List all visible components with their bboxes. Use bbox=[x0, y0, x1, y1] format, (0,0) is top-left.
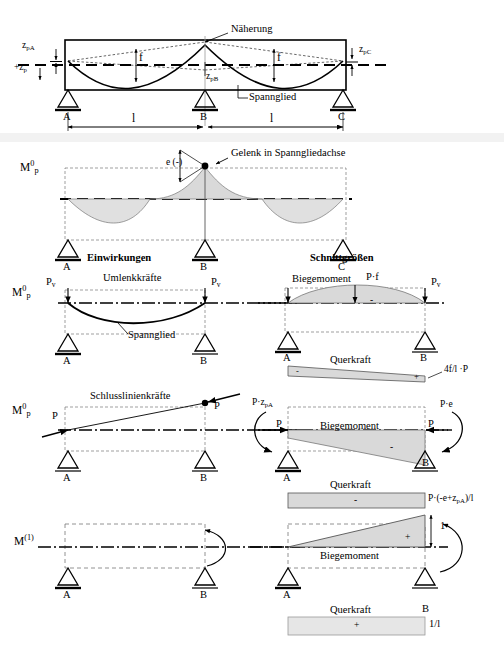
row5-right-support-a bbox=[275, 568, 301, 588]
label-support-b-row4-right: B bbox=[422, 458, 429, 469]
label-zpa: zpA bbox=[22, 41, 35, 52]
row1-zpc-arrow bbox=[346, 48, 358, 76]
row4-right-support-a bbox=[275, 451, 301, 471]
row4-left-force-a-arrow bbox=[42, 430, 68, 437]
label-support-b-row5-left: B bbox=[200, 590, 207, 601]
label-support-b-row3-right: B bbox=[420, 353, 427, 364]
row3-left-tendon bbox=[68, 303, 205, 323]
row5-left-moment-arc bbox=[205, 530, 226, 566]
row1-support-a bbox=[55, 90, 81, 110]
label-span-right: l bbox=[270, 113, 273, 125]
label-moment-pe: P·e bbox=[440, 400, 453, 410]
row2-moment-peak-b bbox=[150, 167, 262, 199]
label-support-a-row5-left: A bbox=[63, 590, 71, 601]
label-biegemoment-row5: Biegemoment bbox=[320, 551, 379, 562]
row3-right-shear-leader bbox=[428, 372, 442, 378]
row3-left-spannglied-leader bbox=[118, 323, 128, 334]
label-support-b-row4-left: B bbox=[200, 473, 207, 484]
label-support-c-row1: C bbox=[338, 112, 345, 123]
header-einwirkungen: Einwirkungen bbox=[87, 253, 151, 264]
label-p-right-row4-right: P bbox=[428, 419, 434, 430]
row5-left-support-b bbox=[192, 568, 218, 588]
label-shear-value-row3: 4f/l ·P bbox=[444, 365, 468, 375]
label-zpb: zpB bbox=[206, 72, 218, 83]
label-support-a-row4-left: A bbox=[63, 473, 71, 484]
label-support-a-row4-right: A bbox=[283, 473, 291, 484]
row4-left-frame bbox=[65, 407, 205, 451]
row2-gelenk-leader bbox=[216, 158, 228, 164]
label-m1-peak-value: 1 bbox=[440, 521, 445, 532]
row3-right-moment-area bbox=[288, 285, 425, 303]
label-support-c-row2: C bbox=[338, 262, 345, 273]
label-support-b-row5-right: B bbox=[422, 604, 429, 615]
sign-plus-row5-shear: + bbox=[354, 621, 359, 631]
sign-minus-row3-moment: - bbox=[370, 296, 373, 306]
label-querkraft-row4: Querkraft bbox=[330, 480, 371, 491]
label-biegemoment-row4: Biegemoment bbox=[320, 421, 379, 432]
label-spannglied-row3: Spannglied bbox=[128, 330, 175, 341]
row2-support-b bbox=[192, 240, 218, 260]
row5-right-support-b bbox=[412, 568, 438, 588]
label-support-a-row2: A bbox=[63, 262, 71, 273]
row5-left-support-a bbox=[55, 568, 81, 588]
label-zp: +zp bbox=[14, 63, 27, 74]
label-schlusslinienkraefte: Schlusslinienkräfte bbox=[90, 391, 170, 402]
label-e-eccentricity: e (-) bbox=[166, 158, 182, 168]
row4-left-support-a bbox=[55, 451, 81, 471]
label-moment-pzpa: P·zpA bbox=[252, 398, 273, 409]
label-f-right: f bbox=[277, 52, 281, 64]
label-spannglied-row1: Spannglied bbox=[249, 92, 296, 103]
row2-moment-span-left bbox=[68, 199, 150, 223]
row4-right-moment-area bbox=[288, 430, 425, 465]
label-pv-right: Pv bbox=[211, 277, 221, 289]
label-biegemoment-row3: Biegemoment bbox=[292, 274, 351, 285]
label-p-right-row4: P bbox=[214, 401, 220, 412]
label-umlenkkraefte: Umlenkkräfte bbox=[103, 273, 161, 284]
label-support-a-row3-right: A bbox=[283, 353, 291, 364]
row4-left-support-b bbox=[192, 451, 218, 471]
label-support-a-row1: A bbox=[63, 112, 71, 123]
label-mp0-row3: M0p bbox=[12, 285, 31, 300]
label-shear-value-row4: P·(-e+zpA)/l bbox=[428, 494, 473, 505]
row1-spannglied-leader bbox=[238, 85, 248, 98]
label-p-left-row4: P bbox=[52, 411, 58, 422]
sign-plus-row3-shear: + bbox=[414, 372, 419, 381]
label-support-b-row1: B bbox=[200, 112, 207, 123]
row4-right-moment-arc-b bbox=[442, 412, 462, 452]
sign-minus-row3-shear: - bbox=[296, 367, 299, 376]
label-querkraft-row3: Querkraft bbox=[330, 355, 371, 366]
label-zpc: zpC bbox=[359, 45, 371, 56]
label-gelenk: Gelenk in Spanngliedachse bbox=[231, 148, 345, 159]
label-p-left-row4-right: P bbox=[276, 419, 282, 430]
row2-moment-span-right bbox=[262, 199, 343, 223]
row1-support-c bbox=[330, 90, 356, 110]
label-f-left: f bbox=[139, 52, 143, 64]
label-querkraft-row5: Querkraft bbox=[330, 605, 371, 616]
label-support-a-row3-left: A bbox=[63, 356, 71, 367]
row3-left-support-a bbox=[55, 334, 81, 354]
row3-right-support-a bbox=[275, 332, 301, 352]
engineering-figure: Näherung zpA +zp zpB zpC f f Spannglied … bbox=[0, 0, 504, 647]
row3-right-shear-area bbox=[288, 366, 425, 382]
label-mp0-row2: M0p bbox=[20, 160, 39, 175]
sign-minus-row4-moment: - bbox=[390, 443, 393, 453]
label-support-b-row2: B bbox=[200, 262, 207, 273]
label-m1-row5: M(1) bbox=[14, 534, 34, 547]
header-schnittgroessen: Schnittgrößen bbox=[310, 253, 374, 264]
label-naeherung: Näherung bbox=[231, 24, 272, 35]
label-support-b-row3-left: B bbox=[200, 356, 207, 367]
sign-minus-row4-shear: - bbox=[354, 496, 357, 506]
row5-left-frame bbox=[65, 524, 205, 568]
label-pv-right-row3: Pv bbox=[431, 277, 441, 289]
row3-left-support-b bbox=[192, 334, 218, 354]
row4-left-node-b bbox=[202, 400, 208, 406]
label-support-a-row5-right: A bbox=[283, 590, 291, 601]
label-pf-peak: P·f bbox=[366, 272, 379, 283]
label-pv-left: Pv bbox=[46, 277, 56, 289]
row4-right-moment-arc-a bbox=[255, 412, 272, 452]
label-mp0-row4: M0p bbox=[12, 403, 31, 418]
row3-right-support-b bbox=[412, 332, 438, 352]
label-shear-value-row5: 1/l bbox=[429, 619, 440, 630]
label-span-left: l bbox=[132, 113, 135, 125]
sign-plus-row5-moment: + bbox=[405, 533, 410, 543]
